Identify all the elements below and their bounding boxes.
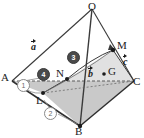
point-label-M: M (117, 40, 127, 51)
step-marker-4: 4 (37, 68, 50, 81)
vertex-dot-M (111, 48, 115, 52)
point-label-L: L (36, 95, 43, 106)
point-label-O: O (88, 1, 96, 12)
vector-arrow-a (31, 39, 36, 43)
vector-arrow-b (88, 66, 93, 70)
step-marker-1: 1 (17, 79, 30, 92)
figure-canvas (0, 0, 144, 138)
point-label-A: A (1, 72, 9, 83)
edge-O-A (12, 9, 92, 81)
vertex-dot-N (65, 77, 69, 81)
vector-label-c: c (123, 54, 127, 67)
vertex-dot-G (102, 72, 106, 76)
point-label-G: G (108, 66, 116, 77)
vector-label-b: b (88, 66, 93, 79)
geometry-figure: O A B C M N L G a b c 1 2 3 4 (0, 0, 144, 138)
step-marker-2: 2 (44, 107, 57, 120)
point-label-B: B (75, 126, 82, 137)
vector-arrow-c (123, 54, 127, 58)
point-label-N: N (56, 68, 64, 79)
step-marker-3: 3 (67, 51, 80, 64)
point-label-C: C (133, 76, 140, 87)
vector-label-a: a (31, 39, 36, 52)
